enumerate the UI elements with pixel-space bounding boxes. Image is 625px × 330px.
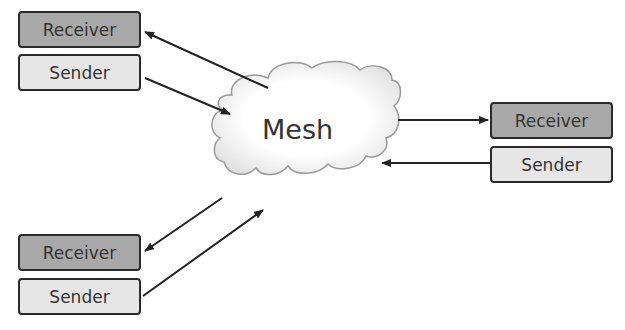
mesh-label: Mesh [262,114,333,145]
arrow-topleft-sender-to-mesh [145,78,230,114]
right-receiver-box: Receiver [490,102,613,139]
topleft-sender-box: Sender [18,54,141,91]
arrow-mesh-to-topleft-receiver [145,32,268,88]
bottomleft-receiver-box: Receiver [18,234,141,271]
arrow-bottomleft-sender-to-mesh [143,210,263,296]
topleft-receiver-box: Receiver [18,11,141,48]
arrow-mesh-to-bottomleft-receiver [145,198,222,251]
right-sender-box: Sender [490,146,613,183]
bottomleft-sender-box: Sender [18,278,141,315]
